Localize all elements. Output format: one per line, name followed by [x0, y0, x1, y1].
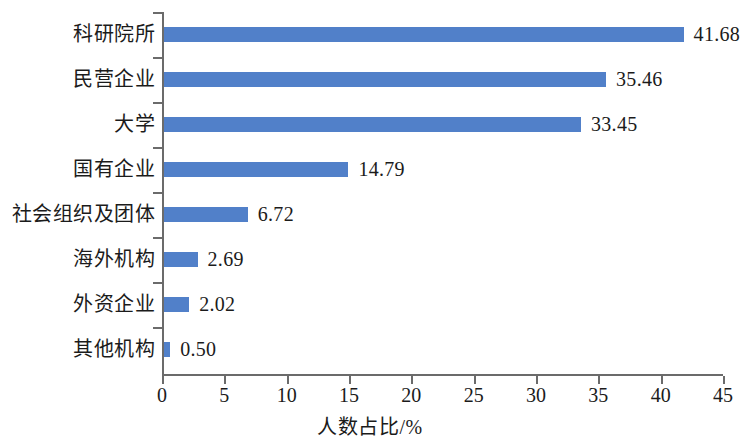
bar-row: 海外机构 2.69: [0, 237, 740, 282]
bar-row: 社会组织及团体 6.72: [0, 192, 740, 237]
bar: [164, 207, 248, 222]
x-axis-tick-label: 35: [578, 384, 618, 407]
plot-area: 科研院所 41.68 民营企业 35.46 大学 33.45 国有企业 14.7…: [0, 0, 740, 439]
bar-row: 国有企业 14.79: [0, 147, 740, 192]
bar-value-label: 2.69: [208, 252, 244, 267]
x-axis-tick: [723, 376, 725, 384]
bar: [164, 27, 684, 42]
category-label: 民营企业: [0, 57, 155, 102]
bar-value-label: 6.72: [258, 207, 294, 222]
category-label: 社会组织及团体: [0, 192, 155, 237]
bar-value-label: 41.68: [694, 27, 740, 42]
x-axis-tick: [536, 376, 538, 384]
bar-row: 民营企业 35.46: [0, 57, 740, 102]
bar-value-label: 14.79: [358, 162, 405, 177]
x-axis-tick-label: 0: [142, 384, 182, 407]
x-axis-tick-label: 10: [267, 384, 307, 407]
x-axis-tick: [411, 376, 413, 384]
category-label: 国有企业: [0, 147, 155, 192]
x-axis-tick: [162, 376, 164, 384]
x-axis-tick: [474, 376, 476, 384]
category-label: 科研院所: [0, 12, 155, 57]
bar-chart: 科研院所 41.68 民营企业 35.46 大学 33.45 国有企业 14.7…: [0, 0, 740, 439]
x-axis-tick-label: 15: [329, 384, 369, 407]
bar-value-label: 2.02: [199, 297, 235, 312]
bar: [164, 72, 606, 87]
bar: [164, 297, 189, 312]
bar-row: 大学 33.45: [0, 102, 740, 147]
x-axis-tick-label: 45: [703, 384, 740, 407]
x-axis-title: 人数占比/%: [0, 411, 740, 439]
bar: [164, 342, 170, 357]
x-axis-tick: [661, 376, 663, 384]
bar-value-label: 35.46: [616, 72, 663, 87]
category-label: 外资企业: [0, 282, 155, 327]
x-axis-tick: [349, 376, 351, 384]
bar-row: 科研院所 41.68: [0, 12, 740, 57]
bar-value-label: 0.50: [180, 342, 216, 357]
category-label: 其他机构: [0, 327, 155, 372]
x-axis-tick-label: 20: [391, 384, 431, 407]
x-axis-tick-label: 5: [204, 384, 244, 407]
x-axis-tick: [287, 376, 289, 384]
x-axis-line: [162, 374, 723, 376]
bar-row: 外资企业 2.02: [0, 282, 740, 327]
category-label: 海外机构: [0, 237, 155, 282]
bar-value-label: 33.45: [591, 117, 638, 132]
x-axis-tick-label: 25: [454, 384, 494, 407]
x-axis-tick-label: 30: [516, 384, 556, 407]
x-axis-tick: [224, 376, 226, 384]
bar: [164, 162, 348, 177]
bar: [164, 252, 198, 267]
bar: [164, 117, 581, 132]
x-axis-tick-label: 40: [641, 384, 681, 407]
category-label: 大学: [0, 102, 155, 147]
bar-row: 其他机构 0.50: [0, 327, 740, 372]
x-axis-tick: [598, 376, 600, 384]
